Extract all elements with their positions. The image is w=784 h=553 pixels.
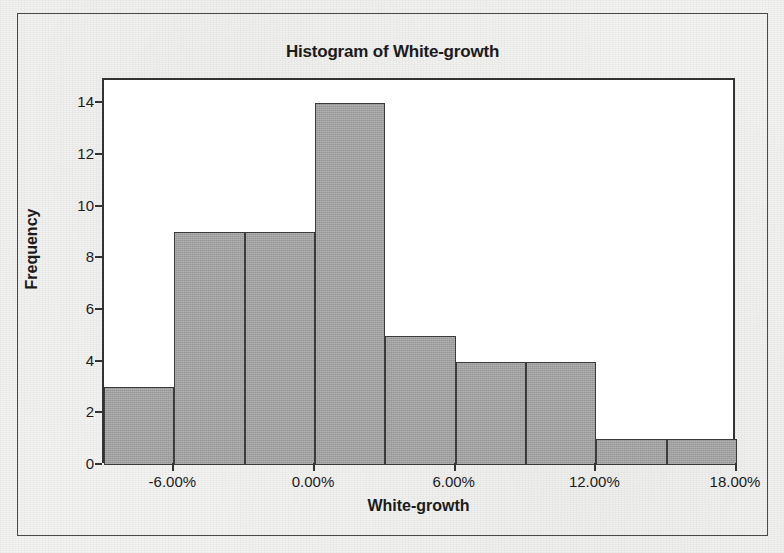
histogram-bar — [315, 103, 385, 465]
x-axis-tick-label: 6.00% — [432, 473, 475, 490]
x-axis-tick-label: -6.00% — [149, 473, 197, 490]
y-axis-tick-mark — [95, 463, 102, 465]
y-axis-tick-mark — [95, 256, 102, 258]
histogram-bar — [596, 439, 666, 465]
plot-area — [102, 78, 735, 463]
x-axis-tick-labels: -6.00%0.00%6.00%12.00%18.00% — [102, 473, 735, 495]
y-axis-tick-marks — [0, 78, 102, 463]
histogram-bar — [385, 336, 455, 465]
y-axis-tick-mark — [95, 411, 102, 413]
x-axis-tick-mark — [172, 463, 174, 471]
chart-title: Histogram of White-growth — [17, 42, 768, 62]
scanned-page-background: Histogram of White-growth Frequency 0246… — [0, 0, 784, 553]
x-axis-tick-label: 18.00% — [710, 473, 761, 490]
x-axis-tick-label: 12.00% — [569, 473, 620, 490]
y-axis-tick-mark — [95, 205, 102, 207]
y-axis-tick-mark — [95, 308, 102, 310]
histogram-bar — [526, 362, 596, 465]
x-axis-tick-mark — [313, 463, 315, 471]
x-axis-tick-label: 0.00% — [292, 473, 335, 490]
x-axis-tick-mark — [454, 463, 456, 471]
x-axis-tick-mark — [594, 463, 596, 471]
histogram-bar — [174, 232, 244, 465]
histogram-bars — [104, 80, 737, 465]
x-axis-tick-marks — [102, 463, 735, 473]
x-axis-tick-mark — [735, 463, 737, 471]
histogram-bar — [667, 439, 737, 465]
y-axis-tick-mark — [95, 101, 102, 103]
y-axis-tick-mark — [95, 360, 102, 362]
histogram-bar — [104, 387, 174, 465]
histogram-bar — [245, 232, 315, 465]
x-axis-title: White-growth — [102, 497, 735, 515]
histogram-bar — [456, 362, 526, 465]
y-axis-tick-mark — [95, 153, 102, 155]
